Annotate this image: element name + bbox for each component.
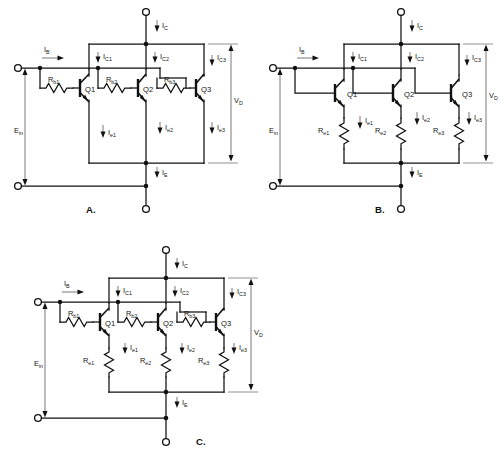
arrow-i-e3 (232, 343, 237, 354)
arrow-i-e1 (358, 116, 363, 129)
label-i-c3: IC3 (472, 53, 481, 63)
arrow-i-e2 (415, 112, 420, 125)
wire-base-feed-q3 (415, 68, 451, 93)
label-rb2: Rb2 (106, 75, 117, 85)
label-i-e1: Ie1 (130, 343, 138, 353)
transistor-q2 (138, 69, 146, 163)
label-i-c2: IC2 (180, 286, 189, 296)
arrow-i-e2 (180, 343, 185, 354)
label-q2: Q2 (163, 319, 173, 328)
resistor-re1 (105, 348, 114, 377)
wire-base-feed-q2 (353, 68, 393, 93)
label-i-e3: Ie3 (239, 343, 247, 353)
arrow-i-c (410, 20, 415, 32)
caption-c: C. (196, 436, 206, 447)
label-re3: Re3 (433, 126, 444, 136)
label-e-in: Ein (34, 359, 43, 369)
arrow-i-c (155, 20, 160, 32)
label-i-e2: Ie2 (422, 113, 430, 123)
label-e-in: Ein (14, 126, 23, 136)
wire-base-feed-q1 (295, 68, 335, 93)
label-rb1: Rb1 (68, 309, 79, 319)
terminal-input-negative[interactable] (35, 415, 42, 422)
arrow-i-c1 (351, 52, 356, 63)
label-re3: Re3 (198, 356, 209, 366)
label-q3: Q3 (221, 319, 231, 328)
label-i-c3: IC3 (237, 287, 246, 297)
arrow-i-e3 (467, 112, 472, 125)
label-q2: Q2 (143, 85, 153, 94)
label-q3: Q3 (462, 90, 472, 99)
label-q1: Q1 (105, 319, 115, 328)
label-re2: Re2 (375, 126, 386, 136)
arrow-i-e2 (158, 122, 163, 134)
transistor-q2 (393, 69, 401, 118)
terminal-emitter-supply[interactable] (163, 439, 170, 446)
label-v-d: VD (234, 96, 243, 106)
terminal-input-positive[interactable] (270, 65, 277, 72)
arrow-i-c2 (408, 52, 413, 63)
label-rb1: Rb1 (48, 75, 59, 85)
caption-a: A. (86, 204, 96, 215)
label-i-b: IB (299, 45, 305, 55)
terminal-collector-supply[interactable] (163, 247, 170, 254)
arrow-i-c (175, 258, 180, 269)
arrow-i-c1 (116, 286, 121, 297)
label-i-e2: Ie2 (187, 343, 195, 353)
label-re1: Re1 (318, 126, 329, 136)
resistor-re2 (162, 348, 171, 377)
circuit-diagram-c: Ein VD IB IC IC1 IC2 IC3 Ie1 Ie2 (20, 240, 280, 459)
resistor-re1 (340, 118, 349, 149)
arrow-i-e1 (123, 343, 128, 354)
arrow-i-e (155, 167, 160, 178)
label-i-e3: Ie3 (474, 113, 482, 123)
transistor-q3 (216, 308, 224, 348)
label-re1: Re1 (83, 356, 94, 366)
terminal-emitter-supply[interactable] (143, 206, 150, 213)
label-v-d: VD (254, 328, 263, 338)
label-i-c: IC (182, 259, 188, 269)
terminal-input-negative[interactable] (15, 183, 22, 190)
circuit-diagram-b: Ein VD IB IC IC1 IC2 IC3 Ie1 Ie2 (255, 0, 503, 220)
arrow-i-e1 (101, 125, 106, 138)
label-rb3: Rb3 (164, 75, 175, 85)
arrow-i-b (297, 56, 319, 61)
arrow-i-b (42, 56, 64, 61)
terminal-emitter-supply[interactable] (398, 206, 405, 213)
dimension-e-in (43, 303, 48, 418)
terminal-input-positive[interactable] (15, 65, 22, 72)
label-i-e: IE (162, 168, 168, 178)
arrow-i-b (62, 290, 84, 295)
label-i-c1: IC1 (103, 52, 112, 62)
label-i-e2: Ie2 (165, 123, 173, 133)
arrow-i-e (175, 397, 180, 408)
label-q1: Q1 (85, 85, 95, 94)
label-i-e1: Ie1 (108, 128, 116, 138)
label-i-e3: Ie3 (217, 123, 225, 133)
label-re2: Re2 (140, 356, 151, 366)
label-i-e1: Ie1 (365, 116, 373, 126)
resistor-re3 (220, 348, 229, 377)
circuit-diagram-a: Ein VD IB IC IC1 IC2 IC3 Ie1 (0, 0, 250, 220)
label-v-d: VD (489, 91, 498, 101)
terminal-input-positive[interactable] (35, 299, 42, 306)
terminal-input-negative[interactable] (270, 183, 277, 190)
label-e-in: Ein (269, 126, 278, 136)
transistor-q1 (80, 69, 89, 163)
label-i-c1: IC1 (123, 286, 132, 296)
transistor-q1 (335, 69, 344, 118)
label-i-e: IE (182, 398, 188, 408)
arrow-i-c2 (173, 286, 178, 297)
terminal-collector-supply[interactable] (143, 9, 150, 16)
label-i-b: IB (64, 279, 70, 289)
label-i-c2: IC2 (160, 52, 169, 62)
label-i-e: IE (417, 168, 423, 178)
arrow-i-c2 (153, 52, 158, 63)
label-i-c2: IC2 (415, 52, 424, 62)
arrow-i-c3 (230, 288, 235, 299)
arrow-i-c3 (210, 55, 215, 66)
label-q1: Q1 (347, 90, 357, 99)
terminal-collector-supply[interactable] (398, 9, 405, 16)
arrow-i-e (410, 167, 415, 178)
label-i-c: IC (417, 21, 423, 31)
